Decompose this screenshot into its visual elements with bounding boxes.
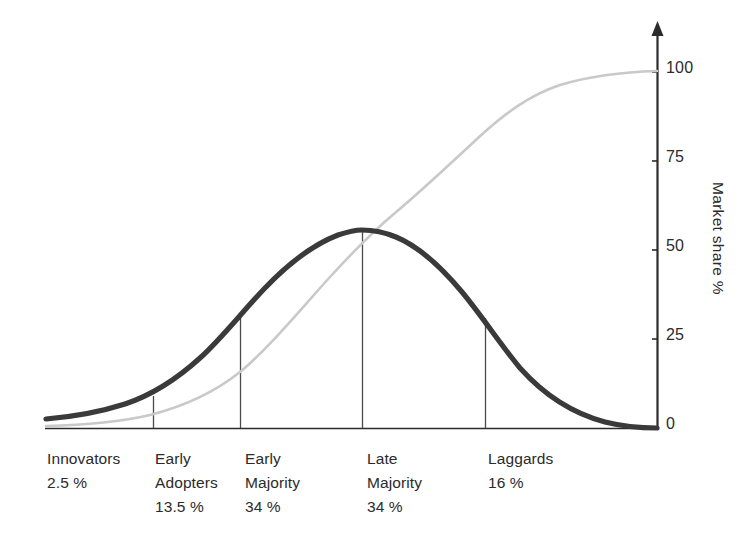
segment-label-late-majority: Late Majority	[367, 447, 422, 495]
segment-label-laggards: Laggards	[488, 447, 553, 471]
segment-share-laggards: 16 %	[488, 471, 524, 495]
y-tick-label-50: 50	[666, 237, 684, 255]
segment-label-early-adopters: Early Adopters	[155, 447, 218, 495]
adoption-lifecycle-chart: 100 75 50 25 0 Market share % Innovators…	[0, 0, 753, 533]
segment-share-early-adopters: 13.5 %	[155, 495, 204, 519]
segment-label-innovators: Innovators	[47, 447, 120, 471]
y-axis-title: Market share %	[709, 182, 727, 295]
y-tick-label-100: 100	[666, 59, 693, 77]
segment-share-late-majority: 34 %	[367, 495, 403, 519]
y-tick-label-25: 25	[666, 326, 684, 344]
bell-curve-adoption	[46, 230, 657, 428]
segment-label-early-majority: Early Majority	[245, 447, 300, 495]
s-curve-cumulative	[46, 71, 657, 426]
y-tick-label-0: 0	[666, 415, 675, 433]
y-tick-label-75: 75	[666, 148, 684, 166]
segment-share-innovators: 2.5 %	[47, 471, 87, 495]
y-axis-arrow-icon	[652, 21, 664, 36]
segment-share-early-majority: 34 %	[245, 495, 281, 519]
